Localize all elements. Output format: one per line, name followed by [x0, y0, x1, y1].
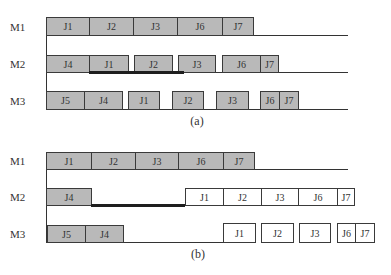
job-block: J7: [337, 188, 355, 206]
job-block: J7: [223, 152, 255, 170]
job-block: J2: [91, 152, 136, 170]
job-block: J1: [223, 223, 256, 243]
panel-b: M1J1J2J3J6J7M2J4J1J2J3J6J7M3J5J4J1J2J3J6…: [0, 0, 391, 275]
idle-delay-bar: [91, 204, 185, 207]
job-block: J4: [46, 188, 92, 206]
job-block: J6: [298, 188, 338, 206]
panel-caption: (b): [191, 247, 205, 262]
job-block: J6: [178, 152, 224, 170]
job-block: J1: [185, 188, 224, 206]
job-block: J3: [299, 223, 331, 243]
machine-label: M2: [10, 191, 36, 203]
job-block: J2: [261, 223, 294, 243]
job-block: J4: [85, 225, 124, 243]
job-block: J6: [337, 223, 356, 243]
job-block: J2: [223, 188, 262, 206]
machine-label: M1: [10, 155, 36, 167]
machine-label: M3: [10, 228, 36, 240]
job-block: J1: [46, 152, 92, 170]
job-block: J3: [135, 152, 179, 170]
job-block: J7: [355, 223, 375, 243]
job-block: J5: [47, 225, 86, 243]
job-block: J3: [261, 188, 299, 206]
